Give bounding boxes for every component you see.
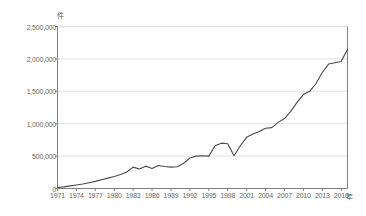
y-tick-label: 1,500,000	[0, 88, 56, 95]
line-chart: 件 年 0500,0001,000,0001,500,0002,000,0002…	[0, 0, 366, 216]
plot-area	[0, 0, 366, 216]
data-series-line	[58, 49, 348, 187]
y-tick-label: 500,000	[0, 153, 56, 160]
y-tick-label: 1,000,000	[0, 120, 56, 127]
x-tick-label: 2016	[328, 192, 354, 199]
y-tick-label: 2,000,000	[0, 55, 56, 62]
y-tick-label: 0	[0, 185, 56, 192]
y-tick-label: 2,500,000	[0, 23, 56, 30]
